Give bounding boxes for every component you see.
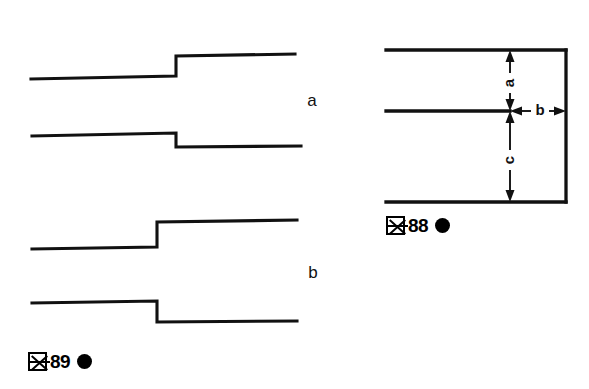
dimension-c: c (500, 111, 517, 202)
dimension-a-arrow-down (506, 99, 515, 111)
filled-circle-icon (77, 354, 92, 369)
figure-root: a b a c (0, 0, 589, 389)
figure-89-traces (31, 54, 301, 322)
dimension-b: b (510, 101, 566, 118)
dimension-a: a (500, 50, 517, 111)
trace-b-lower (32, 301, 297, 322)
trace-a-upper (31, 54, 295, 79)
dimension-b-arrow-right (554, 107, 566, 116)
filled-circle-icon (435, 218, 450, 233)
caption-figure-88: 88 (386, 216, 450, 235)
group-label-b: b (308, 263, 317, 282)
group-label-a: a (307, 91, 317, 110)
trace-b-upper (32, 220, 297, 249)
dimension-c-label: c (500, 156, 517, 164)
dimension-c-arrow-up (506, 111, 515, 123)
dimension-b-arrow-left (510, 107, 522, 116)
dimension-a-label: a (500, 78, 517, 87)
diagram-canvas: a b a c (0, 0, 589, 389)
caption-number-89: 89 (50, 352, 70, 371)
figure-88-frame (386, 50, 566, 202)
trace-a-lower (32, 133, 301, 147)
dimension-a-arrow-up (506, 50, 515, 62)
kanji-zu-icon (386, 216, 405, 235)
caption-figure-89: 89 (28, 352, 92, 371)
caption-number-88: 88 (408, 216, 428, 235)
dimension-c-arrow-down (506, 190, 515, 202)
kanji-zu-icon (28, 352, 47, 371)
dimension-b-label: b (535, 101, 544, 118)
